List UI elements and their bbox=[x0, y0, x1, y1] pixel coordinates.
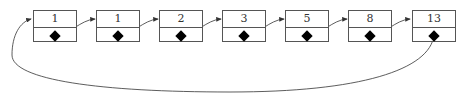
list-node: 5 bbox=[285, 10, 329, 42]
node-pointer bbox=[34, 28, 76, 43]
list-node: 13 bbox=[412, 10, 456, 42]
node-pointer bbox=[160, 28, 202, 43]
node-pointer bbox=[286, 28, 328, 43]
node-value: 5 bbox=[286, 11, 328, 28]
pointer-diamond-icon bbox=[175, 30, 186, 41]
pointer-diamond-icon bbox=[428, 30, 439, 41]
node-value: 13 bbox=[413, 11, 455, 28]
pointer-diamond-icon bbox=[112, 30, 123, 41]
node-pointer bbox=[413, 28, 455, 43]
list-node: 1 bbox=[96, 10, 140, 42]
list-node: 3 bbox=[222, 10, 266, 42]
node-pointer bbox=[97, 28, 139, 43]
node-pointer bbox=[223, 28, 265, 43]
node-pointer bbox=[349, 28, 391, 43]
node-value: 2 bbox=[160, 11, 202, 28]
node-value: 8 bbox=[349, 11, 391, 28]
pointer-diamond-icon bbox=[49, 30, 60, 41]
list-node: 2 bbox=[159, 10, 203, 42]
pointer-diamond-icon bbox=[301, 30, 312, 41]
pointer-diamond-icon bbox=[364, 30, 375, 41]
list-node: 1 bbox=[33, 10, 77, 42]
pointer-diamond-icon bbox=[238, 30, 249, 41]
list-node: 8 bbox=[348, 10, 392, 42]
node-value: 1 bbox=[97, 11, 139, 28]
node-value: 3 bbox=[223, 11, 265, 28]
node-value: 1 bbox=[34, 11, 76, 28]
